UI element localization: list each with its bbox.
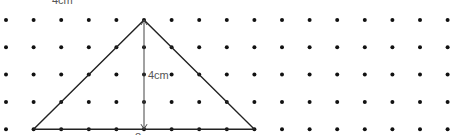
top-label: 4cm xyxy=(52,0,73,6)
grid-dot xyxy=(280,100,284,104)
grid-dot xyxy=(390,18,394,22)
grid-dot xyxy=(390,45,394,49)
grid-dot xyxy=(446,73,450,77)
grid-dot xyxy=(225,18,229,22)
grid-dot xyxy=(87,100,91,104)
grid-dot xyxy=(418,127,422,131)
grid-dot xyxy=(308,45,312,49)
grid-dot xyxy=(252,18,256,22)
grid-dot xyxy=(4,18,8,22)
grid-dot xyxy=(280,45,284,49)
grid-dot xyxy=(446,100,450,104)
grid-dot xyxy=(280,18,284,22)
grid-dot xyxy=(308,100,312,104)
grid-dot xyxy=(363,73,367,77)
grid-dot xyxy=(114,73,118,77)
grid-dot xyxy=(170,100,174,104)
grid-dot xyxy=(308,127,312,131)
grid-dot xyxy=(114,100,118,104)
grid-dot xyxy=(418,18,422,22)
height-label: 4cm xyxy=(148,69,169,81)
grid-dot xyxy=(59,18,63,22)
grid-dot xyxy=(4,73,8,77)
grid-dot xyxy=(308,18,312,22)
grid-dot xyxy=(4,100,8,104)
grid-dot xyxy=(32,100,36,104)
grid-dot xyxy=(335,73,339,77)
grid-dot xyxy=(32,73,36,77)
grid-dot xyxy=(32,45,36,49)
grid-dot xyxy=(363,18,367,22)
grid-dot xyxy=(114,18,118,22)
grid-dot xyxy=(59,45,63,49)
dot-grid xyxy=(4,18,450,131)
grid-dot xyxy=(335,100,339,104)
grid-dot xyxy=(446,18,450,22)
grid-dot xyxy=(363,127,367,131)
grid-dot xyxy=(197,18,201,22)
grid-dot xyxy=(170,73,174,77)
grid-dot xyxy=(390,73,394,77)
base-label: 8cm xyxy=(135,131,156,135)
grid-dot xyxy=(87,45,91,49)
grid-dot xyxy=(335,127,339,131)
grid-dot xyxy=(197,100,201,104)
dot-grid-diagram: 4cm 4cm 8cm xyxy=(0,0,454,135)
grid-dot xyxy=(4,45,8,49)
grid-dot xyxy=(446,45,450,49)
grid-dot xyxy=(280,127,284,131)
grid-dot xyxy=(252,45,256,49)
grid-dot xyxy=(225,45,229,49)
grid-dot xyxy=(363,45,367,49)
grid-dot xyxy=(335,45,339,49)
grid-dot xyxy=(280,73,284,77)
grid-dot xyxy=(170,18,174,22)
grid-dot xyxy=(418,73,422,77)
grid-dot xyxy=(390,127,394,131)
grid-dot xyxy=(252,73,256,77)
grid-dot xyxy=(418,100,422,104)
grid-dot xyxy=(335,18,339,22)
grid-dot xyxy=(418,45,422,49)
grid-dot xyxy=(363,100,367,104)
grid-dot xyxy=(59,73,63,77)
grid-dot xyxy=(197,45,201,49)
grid-dot xyxy=(390,100,394,104)
grid-dot xyxy=(308,73,312,77)
grid-dot xyxy=(252,100,256,104)
grid-dot xyxy=(87,18,91,22)
grid-dot xyxy=(32,18,36,22)
grid-dot xyxy=(4,127,8,131)
grid-dot xyxy=(225,73,229,77)
grid-dot xyxy=(446,127,450,131)
